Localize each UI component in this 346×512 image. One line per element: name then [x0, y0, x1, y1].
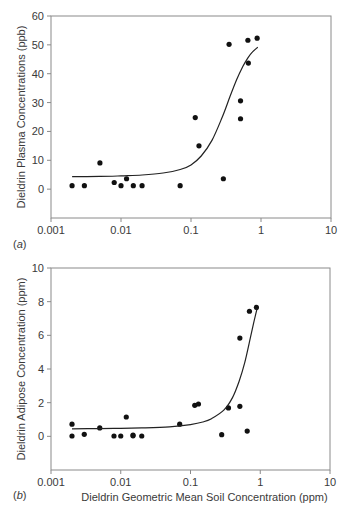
- data-point: [178, 183, 183, 188]
- panel-label-a: (a): [13, 238, 26, 250]
- data-point: [196, 143, 201, 148]
- chart-panel-b: 0.0010.010.11100246810Dieldrin Adipose C…: [0, 250, 346, 512]
- data-point: [82, 432, 87, 437]
- data-point: [193, 115, 198, 120]
- data-point: [139, 183, 144, 188]
- data-point: [97, 425, 102, 430]
- y-tick-label: 6: [38, 329, 44, 341]
- y-axis: 0246810: [32, 262, 51, 442]
- x-tick-label: 0.01: [110, 476, 131, 488]
- fitted-curve: [72, 47, 258, 177]
- data-point: [238, 116, 243, 121]
- data-point: [219, 432, 224, 437]
- y-tick-label: 50: [32, 39, 44, 51]
- data-point: [246, 60, 251, 65]
- plot-frame: [51, 16, 331, 218]
- data-point: [118, 183, 123, 188]
- data-point: [69, 433, 74, 438]
- data-point: [82, 183, 87, 188]
- data-points: [69, 36, 259, 189]
- data-point: [131, 183, 136, 188]
- data-point: [238, 98, 243, 103]
- data-point: [226, 42, 231, 47]
- data-point: [237, 335, 242, 340]
- data-point: [255, 36, 260, 41]
- figure: 0.0010.010.11100102030405060Dieldrin Pla…: [0, 0, 346, 512]
- x-tick-label: 0.001: [37, 476, 65, 488]
- data-point: [237, 404, 242, 409]
- x-tick-label: 1: [257, 476, 263, 488]
- data-point: [130, 433, 135, 438]
- x-axis-label: Dieldrin Geometric Mean Soil Concentrati…: [81, 491, 327, 503]
- y-tick-label: 0: [38, 183, 44, 195]
- data-point: [247, 309, 252, 314]
- x-tick-label: 1: [258, 224, 264, 236]
- y-tick-label: 8: [38, 296, 44, 308]
- x-tick-label: 0.1: [183, 476, 198, 488]
- data-point: [245, 38, 250, 43]
- panel-label-b: (b): [13, 489, 26, 501]
- data-point: [124, 414, 129, 419]
- y-tick-label: 10: [32, 262, 44, 274]
- data-point: [139, 433, 144, 438]
- data-point: [118, 433, 123, 438]
- y-tick-label: 4: [38, 363, 44, 375]
- x-tick-label: 0.001: [37, 224, 65, 236]
- x-tick-label: 0.1: [183, 224, 198, 236]
- data-point: [245, 429, 250, 434]
- data-point: [69, 422, 74, 427]
- y-tick-label: 60: [32, 10, 44, 22]
- y-tick-label: 10: [32, 154, 44, 166]
- data-point: [69, 183, 74, 188]
- data-points: [69, 305, 259, 439]
- y-tick-label: 2: [38, 397, 44, 409]
- fitted-curve: [72, 308, 257, 428]
- data-point: [97, 160, 102, 165]
- y-tick-label: 20: [32, 125, 44, 137]
- panel-label-b-close: ): [23, 489, 27, 501]
- x-tick-label: 10: [324, 476, 336, 488]
- data-point: [124, 176, 129, 181]
- y-tick-label: 40: [32, 68, 44, 80]
- data-point: [112, 180, 117, 185]
- y-axis: 0102030405060: [32, 10, 51, 195]
- y-tick-label: 0: [38, 430, 44, 442]
- y-tick-label: 30: [32, 97, 44, 109]
- x-axis: 0.0010.010.1110: [37, 470, 336, 488]
- x-tick-label: 10: [325, 224, 337, 236]
- x-axis: 0.0010.010.1110: [37, 218, 337, 236]
- data-point: [196, 401, 201, 406]
- data-point: [111, 433, 116, 438]
- y-axis-label: Dieldrin Adipose Concentration (ppm): [15, 278, 27, 461]
- x-tick-label: 0.01: [110, 224, 131, 236]
- chart-panel-a: 0.0010.010.11100102030405060Dieldrin Pla…: [0, 0, 346, 250]
- data-point: [221, 176, 226, 181]
- panel-label-a-close: ): [23, 238, 27, 250]
- y-axis-label: Dieldrin Plasma Concentrations (ppb): [15, 26, 27, 209]
- plot-frame: [51, 268, 330, 470]
